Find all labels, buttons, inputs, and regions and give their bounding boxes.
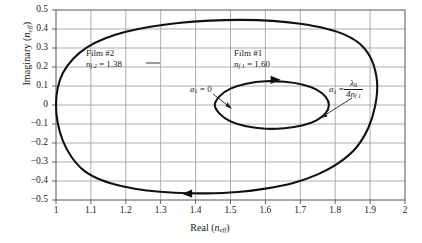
film2-annotation: Film #2 nf 2 = 1.38	[86, 48, 122, 71]
film1-title: Film #1	[234, 48, 262, 58]
x-tick-label: 1.9	[357, 205, 383, 215]
y-axis-label: Imaginary (neff)	[21, 0, 32, 114]
leader-a1-zero-head	[226, 102, 233, 109]
outer-loop-arrow	[182, 189, 192, 197]
y-tick-label: 0.1	[20, 80, 48, 90]
y-tick-label: 0.5	[20, 4, 48, 14]
fraction-denominator: 4nf 1	[344, 90, 363, 100]
annotation-leader-lines	[146, 63, 352, 118]
inner-loop-arrow	[271, 76, 281, 84]
x-axis-label: Real (neff)	[150, 222, 270, 233]
a1-quarter-wave-annotation: a1 = λ0 4nf 1	[329, 80, 363, 101]
y-tick-label: 0.3	[20, 42, 48, 52]
x-tick-label: 1.5	[218, 205, 244, 215]
film2-title: Film #2	[86, 48, 114, 58]
y-tick-label: 0	[20, 99, 48, 109]
x-tick-label: 1.1	[78, 205, 104, 215]
y-tick-label: −0.2	[20, 137, 48, 147]
film2-index: nf 2 = 1.38	[86, 59, 122, 71]
a1-zero-annotation: a1 = 0	[190, 84, 212, 96]
y-tick-label: −0.1	[20, 118, 48, 128]
film1-index: nf 1 = 1.60	[234, 59, 270, 71]
y-tick-label: 0.4	[20, 23, 48, 33]
x-tick-label: 1.8	[322, 205, 348, 215]
x-tick-label: 1.4	[183, 205, 209, 215]
x-tick-label: 1.2	[113, 205, 139, 215]
x-tick-label: 2	[392, 205, 418, 215]
y-tick-label: 0.2	[20, 61, 48, 71]
y-axis-symbol: n	[21, 32, 32, 37]
y-tick-label: −0.4	[20, 175, 48, 185]
quarter-wave-fraction: λ0 4nf 1	[344, 79, 363, 100]
y-tick-label: −0.5	[20, 194, 48, 204]
x-tick-label: 1.3	[148, 205, 174, 215]
figure-container: Imaginary (neff) Real (neff) 0.50.40.30.…	[0, 0, 422, 243]
y-tick-label: −0.3	[20, 156, 48, 166]
leader-a1-quarter	[322, 98, 352, 117]
x-tick-label: 1.7	[287, 205, 313, 215]
x-tick-label: 1	[43, 205, 69, 215]
film1-annotation: Film #1 nf 1 = 1.60	[234, 48, 270, 71]
x-tick-label: 1.6	[252, 205, 278, 215]
